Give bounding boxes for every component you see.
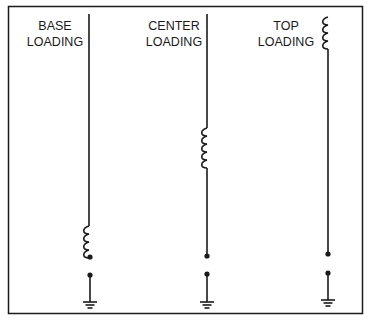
center-upper-terminal [204, 253, 209, 258]
center-ground-symbol [200, 302, 214, 308]
base-label-line2: LOADING [27, 35, 83, 49]
antenna-loading-diagram: BASE LOADING CENTER LOADING TOP LOADING [0, 0, 370, 325]
base-loading-coil [84, 226, 89, 258]
antenna-center-loading: CENTER LOADING [146, 14, 214, 308]
center-label-line1: CENTER [148, 19, 199, 33]
top-ground-symbol [321, 300, 335, 306]
top-upper-terminal [325, 251, 330, 256]
center-loading-coil [202, 128, 207, 168]
diagram-border [9, 7, 363, 314]
antenna-base-loading: BASE LOADING [27, 14, 97, 308]
top-label-line1: TOP [273, 19, 298, 33]
center-label-line2: LOADING [146, 35, 202, 49]
antenna-top-loading: TOP LOADING [258, 17, 335, 306]
base-upper-terminal [87, 254, 92, 259]
base-label-line1: BASE [38, 19, 71, 33]
top-loading-coil [323, 17, 328, 49]
top-label-line2: LOADING [258, 35, 314, 49]
base-ground-symbol [83, 302, 97, 308]
